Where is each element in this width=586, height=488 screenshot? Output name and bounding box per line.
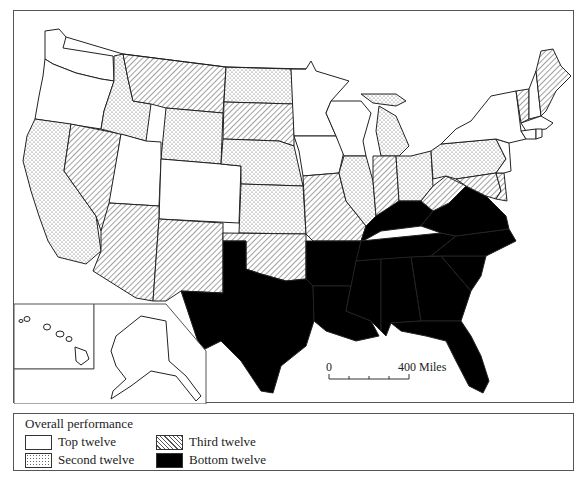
state-colorado [159,159,241,223]
legend-label: Bottom twelve [189,452,266,468]
legend-item-second: Second twelve [25,451,134,469]
legend-item-third: Third twelve [156,433,256,451]
legend-item-top: Top twelve [25,433,116,451]
swatch-hatched-icon [156,435,183,450]
legend-label: Third twelve [189,434,256,450]
scale-end-label: 400 Miles [398,360,447,374]
map-frame: 0 400 Miles [13,10,574,403]
legend-label: Top twelve [58,434,116,450]
state-maine [536,49,571,116]
scale-bar [329,374,409,379]
scale-start-label: 0 [326,360,332,374]
swatch-black-icon [156,453,183,468]
legend: Overall performance Top twelve Third twe… [13,413,574,471]
state-iowa [294,136,344,176]
state-rhode-island [536,129,542,139]
state-north-dakota [224,67,294,104]
swatch-white-icon [25,435,52,450]
state-new-york [441,91,526,144]
state-florida [391,321,489,393]
state-kansas [239,184,306,234]
state-new-mexico [153,219,223,301]
legend-label: Second twelve [58,452,134,468]
legend-title: Overall performance [25,416,133,432]
state-wyoming [161,108,223,164]
swatch-dotted-icon [25,453,52,468]
legend-item-bottom: Bottom twelve [156,451,266,469]
state-michigan [361,94,409,156]
us-state-map: 0 400 Miles [14,11,575,404]
